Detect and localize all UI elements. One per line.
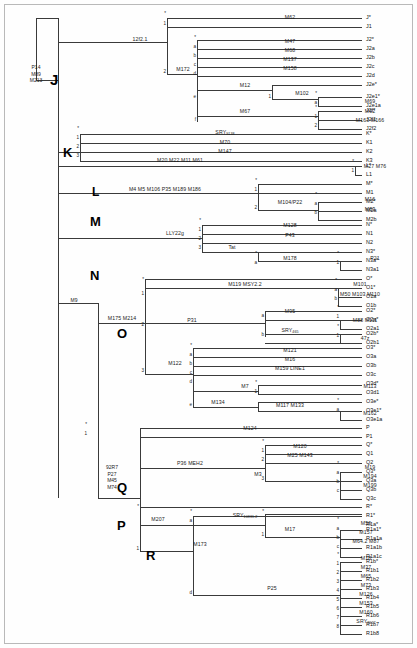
branch-index: b bbox=[314, 210, 317, 215]
haplogroup-R1bstar: R1b* bbox=[366, 558, 378, 564]
haplogroup-R1b6: R1b6 bbox=[366, 612, 379, 618]
haplogroup-R1b1: R1b1 bbox=[366, 567, 379, 573]
marker-m175-m214: M175 M214 bbox=[108, 315, 136, 321]
branch-index: * bbox=[337, 398, 339, 403]
haplogroup-O1star: O1* bbox=[366, 284, 375, 290]
branch-index: * bbox=[337, 517, 339, 522]
marker-p43: P43 bbox=[285, 232, 295, 238]
branch-index: b bbox=[189, 361, 192, 366]
haplogroup-O3a: O3a bbox=[366, 353, 376, 359]
marker-m117-m133: M117 M133 bbox=[276, 402, 304, 408]
haplogroup-J2f1: J2f1 bbox=[366, 116, 376, 122]
branch-index: * bbox=[85, 422, 87, 427]
marker-m12: M12 bbox=[240, 82, 250, 88]
branch-index: 1 bbox=[268, 94, 271, 99]
root-marker: P14 bbox=[30, 64, 43, 71]
branch-index: * bbox=[315, 91, 317, 96]
marker-m102: M102 bbox=[295, 90, 308, 96]
root-markers: P14M89M213 bbox=[30, 64, 43, 84]
haplogroup-J2e1star: J2e1* bbox=[366, 93, 380, 99]
haplogroup-R1b5: R1b5 bbox=[366, 603, 379, 609]
marker-lly22g: LLY22g bbox=[166, 230, 184, 236]
branch-index: 1 bbox=[136, 546, 139, 551]
branch-index: 1 bbox=[76, 135, 79, 140]
haplogroup-Q2: Q2 bbox=[366, 459, 373, 465]
haplogroup-O3e1a: O3e1a bbox=[366, 416, 382, 422]
haplogroup-J2c: J2c bbox=[366, 63, 374, 69]
root-marker: M89 bbox=[30, 71, 43, 78]
branch-index: b bbox=[336, 479, 339, 484]
branch-index: a bbox=[193, 44, 196, 49]
branch-index: * bbox=[337, 305, 339, 310]
haplogroup-Q3star: Q3* bbox=[366, 468, 375, 474]
branch-index: 3 bbox=[141, 368, 144, 373]
haplogroup-O2star: O2* bbox=[366, 307, 375, 313]
branch-index: 1 bbox=[314, 114, 317, 119]
branch-index: 1 bbox=[261, 448, 264, 453]
haplogroup-O2astar: O2a* bbox=[366, 316, 378, 322]
marker-m159-line1: M159 LINE1 bbox=[275, 365, 305, 371]
haplogroup-O3c: O3c bbox=[366, 371, 376, 377]
branch-index: * bbox=[337, 552, 339, 557]
branch-index: d bbox=[193, 71, 196, 76]
haplogroup-N2: N2 bbox=[366, 239, 373, 245]
branch-index: c bbox=[190, 370, 192, 375]
marker-m128: M128 bbox=[283, 222, 296, 228]
branch-index: a bbox=[336, 470, 339, 475]
branch-index: e bbox=[189, 402, 192, 407]
marker-sry: SRY465 bbox=[281, 327, 298, 334]
haplogroup-J1: J1 bbox=[366, 23, 372, 29]
haplogroup-J2estar: J2e* bbox=[366, 81, 377, 87]
haplogroup-R1b7: R1b7 bbox=[366, 621, 379, 627]
branch-index: * bbox=[315, 105, 317, 110]
marker-m147: M147 bbox=[218, 148, 231, 154]
marker-m7: M7 bbox=[241, 383, 248, 389]
marker-m16: M16 bbox=[285, 356, 295, 362]
marker-m178: M178 bbox=[283, 255, 296, 261]
branch-index: * bbox=[255, 178, 257, 183]
branch-index: 3 bbox=[76, 153, 79, 158]
marker-p36-meh2: P36 MEH2 bbox=[177, 460, 203, 466]
branch-index: a bbox=[314, 201, 317, 206]
branch-index: c bbox=[194, 62, 196, 67]
haplogroup-R1b8: R1b8 bbox=[366, 630, 379, 636]
marker-m70: M70 bbox=[220, 139, 230, 145]
marker-m17: M17 bbox=[285, 526, 295, 532]
branch-index: 1 bbox=[141, 291, 144, 296]
haplogroup-R1a1a: R1a1a bbox=[366, 535, 382, 541]
clade-letter-P: P bbox=[117, 519, 126, 532]
branch-index: * bbox=[315, 192, 317, 197]
branch-index: * bbox=[142, 277, 144, 282]
branch-index: 1 bbox=[163, 21, 166, 26]
branch-index: 1 bbox=[254, 187, 257, 192]
branch-index: 1 bbox=[336, 314, 339, 319]
marker-m158: M158 bbox=[283, 65, 296, 71]
branch-index: 3 bbox=[198, 245, 201, 250]
branch-index: * bbox=[337, 324, 339, 329]
branch-index: 1 bbox=[261, 532, 264, 537]
marker-m25-m143: M25 M143 bbox=[287, 452, 312, 458]
haplogroup-M1: M1 bbox=[366, 189, 374, 195]
marker-m120: M120 bbox=[293, 443, 306, 449]
marker-m124: M124 bbox=[243, 425, 256, 431]
marker-m104-p22: M104/P22 bbox=[278, 199, 302, 205]
haplogroup-Mstar: M* bbox=[366, 180, 373, 186]
branch-index: d bbox=[189, 590, 192, 595]
branch-index: b bbox=[261, 332, 264, 337]
marker-m134: M134 bbox=[211, 399, 224, 405]
haplogroup-Lstar: L* bbox=[366, 162, 371, 168]
branch-index: * bbox=[199, 218, 201, 223]
haplogroup-Qstar: Q* bbox=[366, 441, 372, 447]
p-marker: P27 bbox=[106, 471, 118, 478]
branch-index: 2 bbox=[254, 205, 257, 210]
branch-index: * bbox=[255, 251, 257, 256]
branch-index: e bbox=[193, 94, 196, 99]
m9-node-label: M9 bbox=[71, 297, 78, 304]
haplogroup-Ostar: O* bbox=[366, 275, 372, 281]
branch-index: c bbox=[337, 544, 339, 549]
p-marker: 92R7 bbox=[106, 464, 118, 471]
branch-index: * bbox=[190, 509, 192, 514]
marker-m68: M68 bbox=[285, 47, 295, 53]
branch-index: * bbox=[337, 461, 339, 466]
haplogroup-Q3a: Q3a bbox=[366, 477, 376, 483]
